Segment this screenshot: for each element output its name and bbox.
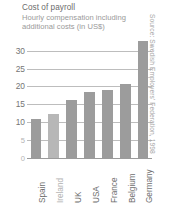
y-tick-label: 15: [16, 99, 25, 109]
bar-slot[interactable]: [66, 40, 77, 158]
bar[interactable]: [48, 114, 59, 158]
x-axis-labels: SpainIrelandUKUSAFranceBelgiumGermany: [27, 159, 152, 205]
x-tick-label: France: [110, 178, 119, 203]
y-tick-label: 30: [16, 46, 25, 56]
bar-slot[interactable]: [31, 40, 42, 158]
source-note: Source: Swedish Employers' Federation, 1…: [149, 14, 156, 154]
bar[interactable]: [31, 119, 42, 158]
bar-slot[interactable]: [102, 40, 113, 158]
title-block: Cost of payroll Hourly compensation incl…: [22, 3, 142, 32]
bar-slot[interactable]: [138, 40, 149, 158]
x-tick-label: Belgium: [128, 173, 137, 203]
bar[interactable]: [84, 92, 95, 158]
y-tick-label: 5: [21, 136, 25, 145]
plot-area: 051015202530: [27, 40, 152, 158]
chart-subtitle: Hourly compensation including additional…: [22, 13, 142, 32]
x-tick-label: Spain: [38, 182, 47, 203]
bar[interactable]: [102, 90, 113, 158]
bar-slot[interactable]: [48, 40, 59, 158]
y-tick-label: 10: [16, 117, 25, 127]
bar[interactable]: [120, 84, 131, 158]
y-tick-label: 20: [16, 81, 25, 91]
bars-layer: [27, 40, 152, 158]
bar-slot[interactable]: [84, 40, 95, 158]
x-tick-label: Ireland: [56, 178, 65, 203]
bar[interactable]: [66, 100, 77, 158]
chart-title: Cost of payroll: [22, 3, 142, 13]
bar[interactable]: [138, 41, 149, 158]
chart-figure: Cost of payroll Hourly compensation incl…: [0, 0, 175, 206]
x-tick-label: Germany: [145, 169, 154, 203]
bar-slot[interactable]: [120, 40, 131, 158]
x-tick-label: UK: [74, 192, 83, 203]
y-tick-label: 25: [16, 64, 25, 74]
y-tick-label: 0: [21, 154, 25, 163]
x-tick-label: USA: [92, 186, 101, 203]
